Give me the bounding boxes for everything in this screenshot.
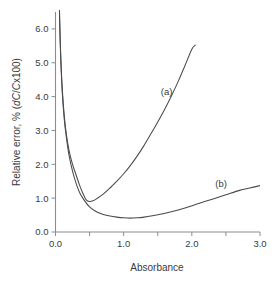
y-tick-label: 3.0 xyxy=(35,125,48,136)
x-tick-label: 3.0 xyxy=(253,238,266,249)
y-tick-label: 4.0 xyxy=(35,91,48,102)
photometric-error-chart: 0.01.02.03.04.05.06.0 0.01.02.03.0 (a)(b… xyxy=(0,0,278,282)
y-axis-title-prefix: Relative error, % ( xyxy=(11,105,22,186)
y-tick-label: 5.0 xyxy=(35,57,48,68)
x-tick-label: 2.0 xyxy=(185,238,198,249)
x-tick-label: 1.0 xyxy=(117,238,130,249)
y-tick-label: 1.0 xyxy=(35,193,48,204)
data-curve-b xyxy=(58,0,260,218)
x-axis-ticks: 0.01.02.03.0 xyxy=(49,232,267,249)
curve-annotation-b: (b) xyxy=(215,178,227,189)
x-tick-label: 0.0 xyxy=(49,238,62,249)
curve-annotation-a: (a) xyxy=(161,86,173,97)
x-axis-title: Absorbance xyxy=(130,262,184,273)
data-curves-group xyxy=(58,0,260,218)
chart-canvas: 0.01.02.03.04.05.06.0 0.01.02.03.0 (a)(b… xyxy=(0,0,278,282)
curve-annotations-group: (a)(b) xyxy=(161,86,227,189)
y-axis-title-suffix: x100) xyxy=(11,58,22,83)
y-tick-label: 0.0 xyxy=(35,226,48,237)
y-tick-label: 6.0 xyxy=(35,23,48,34)
y-tick-label: 2.0 xyxy=(35,159,48,170)
y-axis-title: Relative error, % (dC/Cx100) xyxy=(11,58,22,186)
data-curve-a xyxy=(58,0,195,202)
y-axis-ticks: 0.01.02.03.04.05.06.0 xyxy=(35,23,55,237)
